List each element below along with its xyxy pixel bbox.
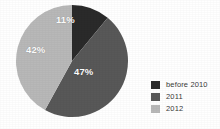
pie-chart-figure: 11% 47% 42% before 2010 2011 2012	[0, 0, 220, 129]
legend-label-2012: 2012	[166, 104, 183, 113]
pie-label-2012: 42%	[26, 44, 45, 55]
legend-item-2011[interactable]: 2011	[151, 91, 215, 102]
pie-label-before-2010: 11%	[56, 14, 75, 25]
legend-item-2012[interactable]: 2012	[151, 103, 215, 114]
legend-label-before-2010: before 2010	[166, 80, 208, 89]
legend-item-before-2010[interactable]: before 2010	[151, 79, 215, 90]
legend-label-2011: 2011	[166, 92, 183, 101]
pie-label-2011: 47%	[74, 66, 93, 77]
chart-legend: before 2010 2011 2012	[151, 79, 215, 115]
legend-swatch-2011	[151, 93, 160, 101]
legend-swatch-before-2010	[151, 81, 160, 89]
legend-swatch-2012	[151, 105, 160, 113]
